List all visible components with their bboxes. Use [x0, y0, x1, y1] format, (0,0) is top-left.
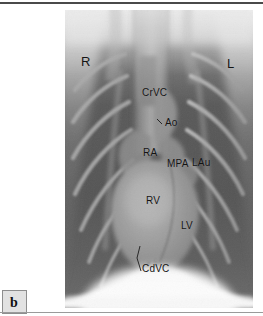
figure-panel: R L CrVC Ao RA MPA LAu RV LV CdVC b: [0, 0, 263, 316]
annotation-ao: Ao: [165, 118, 178, 128]
bottom-divider-rule: [0, 312, 263, 313]
orientation-label-right: R: [81, 55, 91, 68]
annotation-cdvc: CdVC: [142, 264, 169, 274]
annotation-lv: LV: [181, 221, 193, 231]
annotation-ra: RA: [143, 148, 157, 158]
annotation-crvc: CrVC: [142, 88, 167, 98]
orientation-label-left: L: [227, 57, 235, 70]
annotation-mpa: MPA: [167, 159, 189, 169]
panel-letter-box: b: [2, 290, 27, 314]
top-divider-rule: [0, 2, 263, 4]
annotation-rv: RV: [146, 196, 160, 206]
annotation-lau: LAu: [192, 158, 210, 168]
panel-letter: b: [10, 295, 18, 310]
